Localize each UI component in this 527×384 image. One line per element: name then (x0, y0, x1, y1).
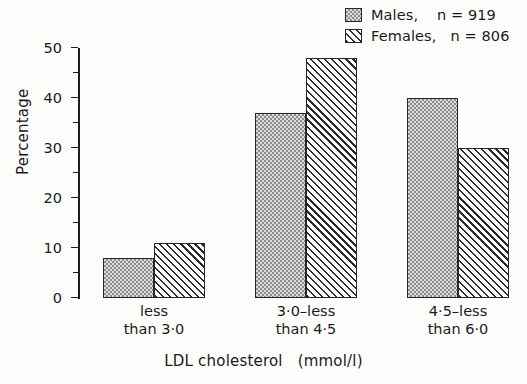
y-axis-line (78, 48, 80, 299)
x-group-label-1: less than 3·0 (103, 302, 205, 338)
y-tick-major-20 (71, 197, 78, 199)
y-tick-minor-5 (73, 272, 78, 274)
y-tick-minor-45 (73, 72, 78, 74)
x-group-label-3: 4·5–less than 6·0 (407, 302, 509, 338)
bar-females-group-1 (154, 243, 205, 298)
x-group-label-2: 3·0–less than 4·5 (255, 302, 357, 338)
y-tick-label-40: 40 (44, 91, 62, 106)
y-tick-minor-25 (73, 172, 78, 174)
legend-label-males: Males, n = 919 (371, 7, 496, 23)
bar-males-group-3 (407, 98, 458, 298)
y-axis-title: Percentage (14, 89, 32, 175)
y-tick-label-0: 0 (53, 291, 62, 306)
y-tick-major-40 (71, 97, 78, 99)
y-tick-label-20: 20 (44, 191, 62, 206)
bar-females-group-3 (458, 148, 509, 298)
y-tick-minor-35 (73, 122, 78, 124)
chart-figure: Males, n = 919 Females, n = 806 Percenta… (0, 0, 527, 384)
x-axis-title: LDL cholesterol (mmol/l) (0, 352, 527, 370)
legend-item-males: Males, n = 919 (345, 6, 509, 23)
y-tick-major-0 (71, 297, 78, 299)
bar-males-group-1 (103, 258, 154, 298)
legend-label-females: Females, n = 806 (371, 28, 509, 44)
chart-legend: Males, n = 919 Females, n = 806 (345, 6, 509, 44)
plot-area: 01020304050 less than 3·03·0–less than 4… (78, 48, 515, 298)
y-tick-minor-15 (73, 222, 78, 224)
y-tick-major-50 (71, 47, 78, 49)
legend-item-females: Females, n = 806 (345, 27, 509, 44)
legend-swatch-females (345, 29, 362, 43)
bar-males-group-2 (255, 113, 306, 298)
y-tick-label-30: 30 (44, 141, 62, 156)
y-tick-label-50: 50 (44, 41, 62, 56)
y-tick-major-10 (71, 247, 78, 249)
bar-females-group-2 (306, 58, 357, 298)
y-tick-major-30 (71, 147, 78, 149)
y-tick-label-10: 10 (44, 241, 62, 256)
legend-swatch-males (345, 8, 362, 22)
